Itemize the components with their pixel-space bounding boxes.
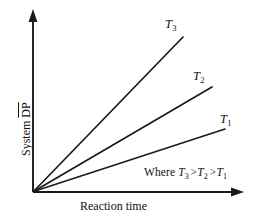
x-axis-arrowhead [231, 188, 244, 197]
y-axis-label: System DP [20, 36, 38, 156]
series-line-t1 [34, 129, 226, 192]
series-label-t1-subscript: 1 [227, 118, 231, 128]
series-label-t2-subscript: 2 [200, 75, 204, 85]
series-label-t3-subscript: 3 [172, 23, 176, 33]
x-axis-label: Reaction time [80, 200, 147, 212]
annotation-term-1: T [178, 166, 185, 178]
y-axis-label-overlined-term: DP [19, 102, 33, 117]
annotation-term-3-subscript: 1 [223, 172, 227, 181]
figure-container: T3 T2 T1 Where T3>T2>T1 Reaction time Sy… [0, 0, 253, 221]
annotation-term-2: T [197, 166, 204, 178]
series-label-t3: T3 [165, 18, 176, 31]
series-label-t1: T1 [220, 113, 231, 126]
annotation-prefix: Where [144, 166, 178, 178]
annotation-operator-2: > [208, 166, 217, 178]
annotation-term-2-subscript: 2 [204, 172, 208, 181]
inequality-annotation: Where T3>T2>T1 [144, 167, 227, 179]
series-label-t2: T2 [193, 70, 204, 83]
annotation-term-1-subscript: 3 [185, 172, 189, 181]
y-axis-label-prefix: System [19, 118, 33, 156]
series-label-t1-base: T [220, 112, 227, 126]
y-axis-arrowhead [29, 9, 38, 22]
series-label-t3-base: T [165, 17, 172, 31]
series-label-t2-base: T [193, 69, 200, 83]
